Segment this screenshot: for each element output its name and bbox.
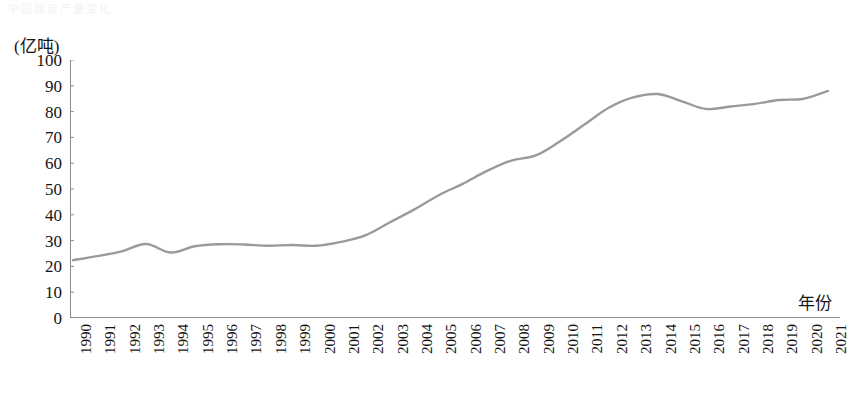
- x-tick-label: 1990: [79, 324, 94, 354]
- x-tick-label: 2015: [688, 324, 703, 354]
- x-tick-label: 2012: [615, 324, 630, 354]
- x-tick-label: 1991: [103, 324, 118, 354]
- x-tick-label: 2002: [371, 324, 386, 354]
- y-tick-label: 0: [14, 310, 62, 327]
- y-tick-label: 10: [14, 284, 62, 301]
- x-tick-label: 1994: [176, 324, 191, 354]
- x-tick-label: 2016: [712, 324, 727, 354]
- x-tick-label: 2009: [542, 324, 557, 354]
- x-tick-label: 1998: [274, 324, 289, 354]
- y-tick-label: 90: [14, 78, 62, 95]
- y-axis-tick-labels: 1009080706050403020100: [10, 0, 62, 399]
- x-tick-label: 1993: [152, 324, 167, 354]
- data-series-line: [73, 91, 828, 260]
- x-tick-label: 2004: [420, 324, 435, 354]
- plot-area: [70, 60, 840, 318]
- line-chart-svg: [70, 60, 840, 318]
- x-tick-label: 2013: [639, 324, 654, 354]
- x-axis-tick-labels: 1990199119921993199419951996199719981999…: [70, 320, 840, 398]
- x-tick-label: 2014: [664, 324, 679, 354]
- x-tick-label: 2021: [834, 324, 849, 354]
- y-tick-label: 80: [14, 104, 62, 121]
- axis-lines: [70, 60, 840, 318]
- x-tick-label: 2011: [590, 324, 605, 353]
- x-tick-label: 2019: [785, 324, 800, 354]
- x-tick-label: 2010: [566, 324, 581, 354]
- y-tick-label: 70: [14, 129, 62, 146]
- x-tick-label: 2005: [444, 324, 459, 354]
- x-tick-label: 2000: [323, 324, 338, 354]
- chart-container: 中国煤炭产量变化 (亿吨) 年份 1009080706050403020100 …: [0, 0, 863, 399]
- x-tick-label: 2020: [810, 324, 825, 354]
- x-tick-label: 2017: [737, 324, 752, 354]
- x-tick-label: 1999: [298, 324, 313, 354]
- x-tick-label: 2018: [761, 324, 776, 354]
- y-tick-label: 100: [14, 52, 62, 69]
- x-tick-label: 2008: [517, 324, 532, 354]
- x-tick-label: 1992: [128, 324, 143, 354]
- x-tick-label: 1995: [201, 324, 216, 354]
- y-tick-label: 40: [14, 207, 62, 224]
- x-tick-label: 1996: [225, 324, 240, 354]
- x-tick-label: 2007: [493, 324, 508, 354]
- y-tick-label: 30: [14, 233, 62, 250]
- y-tick-label: 20: [14, 258, 62, 275]
- y-tick-label: 60: [14, 155, 62, 172]
- x-tick-label: 2006: [469, 324, 484, 354]
- x-tick-label: 2003: [396, 324, 411, 354]
- y-tick-label: 50: [14, 181, 62, 198]
- x-tick-label: 2001: [347, 324, 362, 354]
- x-tick-label: 1997: [249, 324, 264, 354]
